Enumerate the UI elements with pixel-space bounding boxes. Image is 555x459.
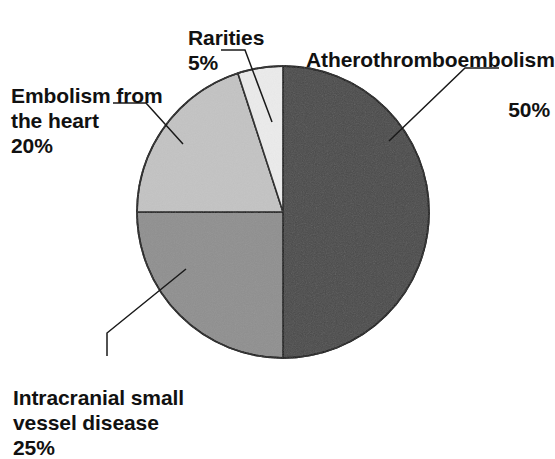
pie-label-embolism-from-the-heart: Embolism from the heart 20% [11, 58, 221, 183]
pie-label-atherothromboembolism: Atherothromboembolism 50% [306, 22, 550, 147]
pie-label-intracranial-small-vessel-disease: Intracranial small vessel disease 25% [13, 360, 243, 459]
pie-label-atherothromboembolism-name: Atherothromboembolism [306, 47, 550, 72]
pie-label-embolism-percent: 20% [11, 133, 221, 158]
pie-label-embolism-name: Embolism from the heart [11, 84, 163, 132]
pie-label-atherothromboembolism-percent: 50% [306, 97, 550, 122]
pie-slice-intracranial-small-vessel-disease [137, 212, 283, 358]
pie-label-intracranial-percent: 25% [13, 435, 243, 459]
pie-label-rarities-name: Rarities [188, 26, 264, 49]
pie-label-intracranial-name: Intracranial small vessel disease [13, 386, 184, 434]
